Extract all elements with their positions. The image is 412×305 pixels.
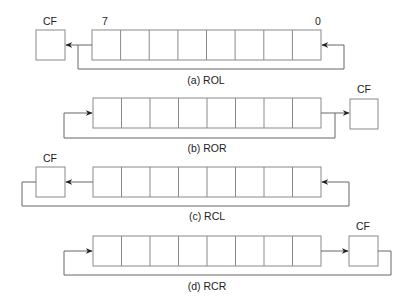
carry-loop-arrow — [22, 182, 349, 206]
diagram-rcr: CF (d) RCR — [64, 220, 391, 292]
carry-flag-box — [349, 236, 378, 266]
carry-loop-arrow — [64, 251, 391, 275]
register-8bit — [93, 98, 321, 128]
register-8bit — [92, 30, 321, 60]
cf-label: CF — [43, 152, 57, 164]
caption: (a) ROL — [187, 74, 225, 86]
cf-label: CF — [43, 15, 57, 27]
carry-flag-box — [350, 99, 378, 129]
rotate-instructions-diagram: CF 7 0 (a) ROL CF — [0, 0, 412, 305]
lsb-bit-label: 0 — [315, 15, 321, 27]
msb-bit-label: 7 — [102, 15, 108, 27]
caption: (d) RCR — [188, 280, 227, 292]
caption: (c) RCL — [189, 210, 225, 222]
register-8bit — [93, 167, 321, 197]
diagram-ror: CF (b) ROR — [64, 83, 378, 154]
cf-label: CF — [357, 83, 371, 95]
rotate-loop-arrow — [78, 45, 344, 69]
cf-label: CF — [356, 220, 370, 232]
diagram-rol: CF 7 0 (a) ROL — [36, 15, 344, 86]
register-8bit — [93, 236, 321, 266]
caption: (b) ROR — [187, 142, 227, 154]
carry-flag-box — [36, 30, 65, 60]
carry-flag-box — [36, 167, 65, 197]
diagram-rcl: CF (c) RCL — [22, 152, 349, 222]
rotate-loop-arrow — [64, 113, 335, 138]
